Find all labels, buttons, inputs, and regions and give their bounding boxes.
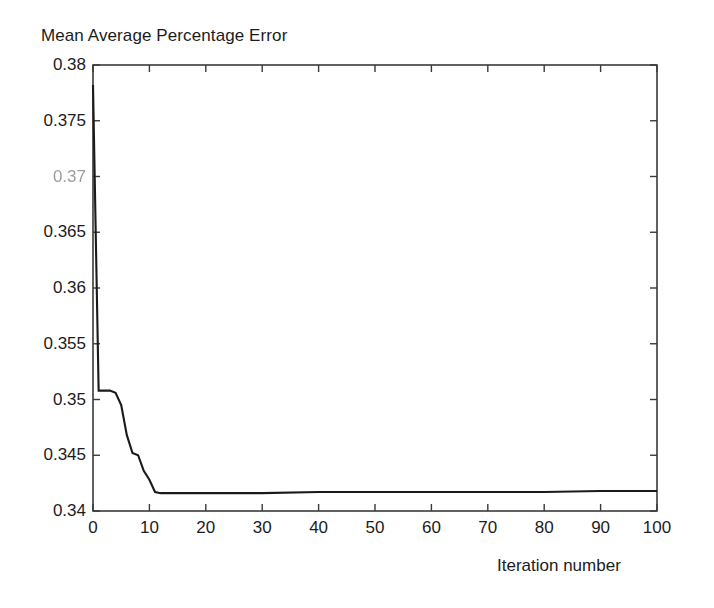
y-axis-ticks bbox=[93, 65, 657, 511]
axis-frame bbox=[93, 65, 657, 511]
plot-area bbox=[0, 0, 714, 608]
chart-figure: Mean Average Percentage Error 0.380.3750… bbox=[0, 0, 714, 608]
x-axis-ticks bbox=[93, 65, 657, 511]
data-line-mape bbox=[93, 85, 657, 493]
